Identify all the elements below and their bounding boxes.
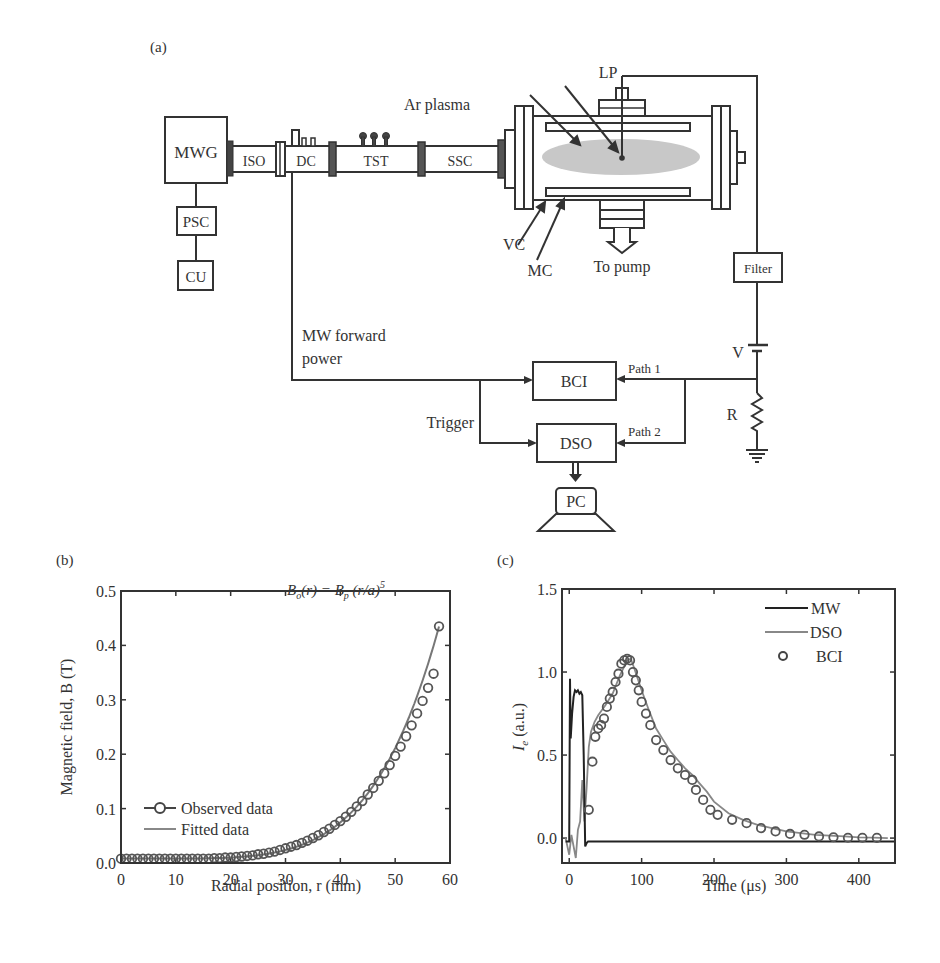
- legend-observed: Observed data: [181, 800, 273, 817]
- y-tick-label: 1.5: [537, 581, 557, 598]
- legend-mw: MW: [811, 600, 841, 617]
- y-tick-label: 0.0: [537, 830, 557, 847]
- legend-dso: DSO: [810, 624, 842, 641]
- trigger-label: Trigger: [427, 414, 475, 432]
- x-tick-label: 300: [774, 871, 798, 888]
- y-tick-label: 0.4: [96, 637, 116, 654]
- x-tick-label: 10: [168, 871, 184, 888]
- cu-label: CU: [186, 269, 207, 285]
- chart-c-ylabel: Ie (a.u.): [510, 703, 530, 752]
- y-tick-label: 1.0: [537, 664, 557, 681]
- y-tick-label: 0.2: [96, 746, 116, 763]
- y-tick-label: 0.3: [96, 692, 116, 709]
- ssc-label: SSC: [448, 154, 473, 169]
- bci-label: BCI: [561, 373, 588, 390]
- y-tick-label: 0.5: [537, 747, 557, 764]
- to-pump-label: To pump: [593, 258, 650, 276]
- dso-label: DSO: [560, 435, 592, 452]
- panel-a-label: (a): [150, 39, 167, 56]
- mw-forward-label-1: MW forward: [302, 327, 386, 344]
- chart-b-legend: Observed data Fitted data: [144, 800, 273, 838]
- x-tick-label: 100: [630, 871, 654, 888]
- v-label: V: [732, 344, 744, 361]
- x-tick-label: 0: [117, 871, 125, 888]
- chart-b-ylabel: Magnetic field, B (T): [58, 659, 76, 796]
- chart-c-xlabel: Time (μs): [704, 877, 767, 895]
- r-label: R: [727, 406, 738, 423]
- iso-label: ISO: [243, 154, 266, 169]
- lp-label: LP: [599, 64, 618, 81]
- x-tick-label: 0: [565, 871, 573, 888]
- chart-c-electron-current: (c) 01002003004000.00.51.01.5 Time (μs) …: [470, 540, 940, 960]
- path2-label: Path 2: [628, 424, 661, 439]
- x-tick-label: 60: [442, 871, 458, 888]
- chart-b-magnetic-field: (b) 01020304050600.00.10.20.30.40.5 Bo(r…: [0, 540, 470, 960]
- vc-label: VC: [503, 236, 525, 253]
- panel-c-label: (c): [497, 552, 514, 569]
- legend-bci: BCI: [816, 648, 843, 665]
- path1-label: Path 1: [628, 361, 661, 376]
- setup-diagram: (a) MWG PSC CU ISO DC TST SSC Ar plasma: [0, 0, 940, 540]
- chart-c-legend: MW DSO BCI: [765, 600, 843, 665]
- mwg-label: MWG: [174, 143, 217, 162]
- ar-plasma-label: Ar plasma: [404, 96, 470, 114]
- psc-label: PSC: [183, 214, 210, 230]
- mw-forward-label-2: power: [302, 350, 343, 368]
- chart-b-xlabel: Radial position, r (mm): [211, 877, 361, 895]
- x-tick-label: 50: [387, 871, 403, 888]
- x-tick-label: 400: [847, 871, 871, 888]
- y-tick-label: 0.1: [96, 801, 116, 818]
- legend-fitted: Fitted data: [181, 821, 249, 838]
- dc-label: DC: [296, 154, 315, 169]
- filter-label: Filter: [744, 261, 773, 276]
- tst-label: TST: [364, 154, 389, 169]
- y-tick-label: 0.0: [96, 855, 116, 872]
- panel-b-label: (b): [56, 552, 74, 569]
- y-tick-label: 0.5: [96, 583, 116, 600]
- pc-label: PC: [566, 493, 586, 510]
- chart-b-annotation: Bo(r) = Bp (r/a)5: [287, 579, 385, 601]
- mc-label: MC: [528, 262, 553, 279]
